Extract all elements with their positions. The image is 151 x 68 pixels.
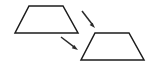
diagram-canvas [0, 0, 151, 68]
trapezoid-translation-diagram [0, 0, 151, 68]
diagram-background [0, 0, 151, 68]
